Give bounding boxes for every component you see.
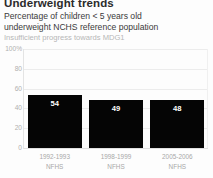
x-axis-tick-label-period: 2005-2006 bbox=[162, 153, 193, 160]
y-axis-tick-label: 60 bbox=[0, 86, 22, 92]
x-axis-tick-label: 1992-1993NFHS bbox=[24, 152, 85, 171]
bar-value-label: 48 bbox=[150, 105, 204, 113]
chart-header: Underweight trends Percentage of childre… bbox=[4, 0, 209, 43]
y-axis-tick-label: 20 bbox=[0, 125, 22, 131]
x-axis-tick-label-source: NFHS bbox=[147, 162, 208, 172]
chart-subtitle-line-1: Percentage of children < 5 years old bbox=[4, 11, 142, 21]
bar-value-label: 49 bbox=[89, 105, 143, 113]
x-axis-tick-label-source: NFHS bbox=[85, 162, 146, 172]
bar-series: 544948 bbox=[24, 49, 208, 148]
y-axis-tick-label: 40 bbox=[0, 105, 22, 111]
bar-value-label: 54 bbox=[28, 100, 82, 108]
x-axis-tick-label: 1998-1999NFHS bbox=[85, 152, 146, 171]
y-axis-tick-label: 100% bbox=[0, 46, 22, 52]
y-axis: 100%806040200 bbox=[0, 49, 22, 148]
chart-subtitle-line-2: underweight NCHS reference population bbox=[4, 22, 158, 32]
x-axis-tick-label-period: 1992-1993 bbox=[39, 153, 70, 160]
chart-subtitle: Percentage of children < 5 years old und… bbox=[4, 11, 209, 32]
bar-slot[interactable]: 54 bbox=[28, 49, 82, 148]
x-axis-line bbox=[24, 148, 208, 149]
y-axis-tick-label: 0 bbox=[0, 145, 22, 151]
y-axis-tick-label: 80 bbox=[0, 66, 22, 72]
mdg-progress-note: Insufficient progress towards MDG1 bbox=[4, 33, 209, 43]
x-axis-tick-label: 2005-2006NFHS bbox=[147, 152, 208, 171]
bar-slot[interactable]: 49 bbox=[89, 49, 143, 148]
x-axis-labels: 1992-1993NFHS1998-1999NFHS2005-2006NFHS bbox=[24, 152, 208, 178]
page-title: Underweight trends bbox=[4, 0, 209, 9]
underweight-trends-chart-panel: Underweight trends Percentage of childre… bbox=[0, 0, 213, 178]
x-axis-tick-label-period: 1998-1999 bbox=[101, 153, 132, 160]
chart-plot-area: 100%806040200 544948 1992-1993NFHS1998-1… bbox=[0, 45, 213, 178]
x-axis-tick-label-source: NFHS bbox=[24, 162, 85, 172]
bar-slot[interactable]: 48 bbox=[150, 49, 204, 148]
